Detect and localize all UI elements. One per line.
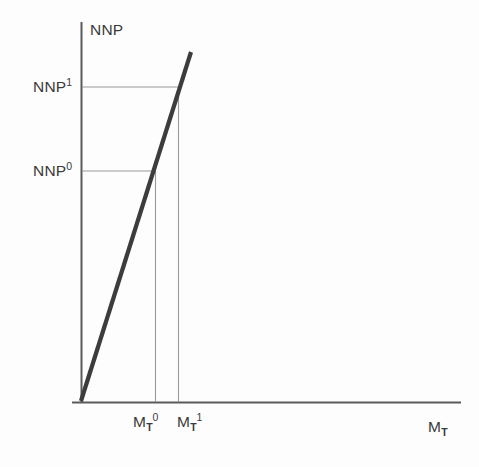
y-tick-label-nnp0-base: NNP bbox=[33, 162, 66, 179]
y-axis-title: NNP bbox=[90, 22, 123, 38]
x-tick-label-mt1-base: M bbox=[177, 413, 190, 430]
x-tick-label-mt0: MT0 bbox=[133, 414, 158, 430]
x-axis-title-base: M bbox=[428, 418, 441, 435]
x-tick-label-mt0-sub: T bbox=[146, 421, 152, 433]
x-tick-label-mt1-sub: T bbox=[190, 421, 196, 433]
data-series-nnp-schedule bbox=[81, 52, 191, 401]
plot-area bbox=[0, 0, 479, 467]
y-tick-label-nnp1: NNP1 bbox=[33, 79, 72, 95]
x-tick-label-mt1: MT1 bbox=[177, 414, 202, 430]
x-axis-title-sub: T bbox=[441, 426, 447, 438]
y-tick-label-nnp1-sup: 1 bbox=[66, 76, 72, 88]
x-axis-title: MT bbox=[428, 419, 448, 435]
chart-canvas: NNP MT NNP1 NNP0 MT0 MT1 bbox=[0, 0, 479, 467]
y-tick-label-nnp0: NNP0 bbox=[33, 163, 72, 179]
x-tick-label-mt0-sup: 0 bbox=[153, 411, 159, 423]
x-tick-label-mt1-sup: 1 bbox=[197, 411, 203, 423]
y-axis-title-base: NNP bbox=[90, 21, 123, 38]
y-tick-label-nnp0-sup: 0 bbox=[66, 160, 72, 172]
y-tick-label-nnp1-base: NNP bbox=[33, 78, 66, 95]
x-tick-label-mt0-base: M bbox=[133, 413, 146, 430]
